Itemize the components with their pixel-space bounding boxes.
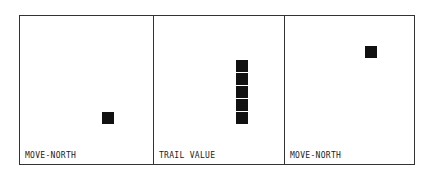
trail-cell: [236, 86, 248, 98]
trail-cell: [236, 99, 248, 111]
panel-label: MOVE-NORTH: [25, 152, 76, 160]
panel-trail-value: TRAIL VALUE: [154, 16, 285, 164]
trail-cell: [236, 60, 248, 72]
trail-cell: [236, 112, 248, 124]
panel-move-north-1: MOVE-NORTH: [20, 16, 154, 164]
panel-move-north-2: MOVE-NORTH: [285, 16, 416, 164]
panel-label: TRAIL VALUE: [159, 152, 215, 160]
trail-cell: [236, 73, 248, 85]
occupied-cell: [365, 46, 377, 58]
grid-display-frame: MOVE-NORTH TRAIL VALUE MOVE-NORTH: [19, 15, 415, 165]
occupied-cell: [102, 112, 114, 124]
panel-label: MOVE-NORTH: [290, 152, 341, 160]
